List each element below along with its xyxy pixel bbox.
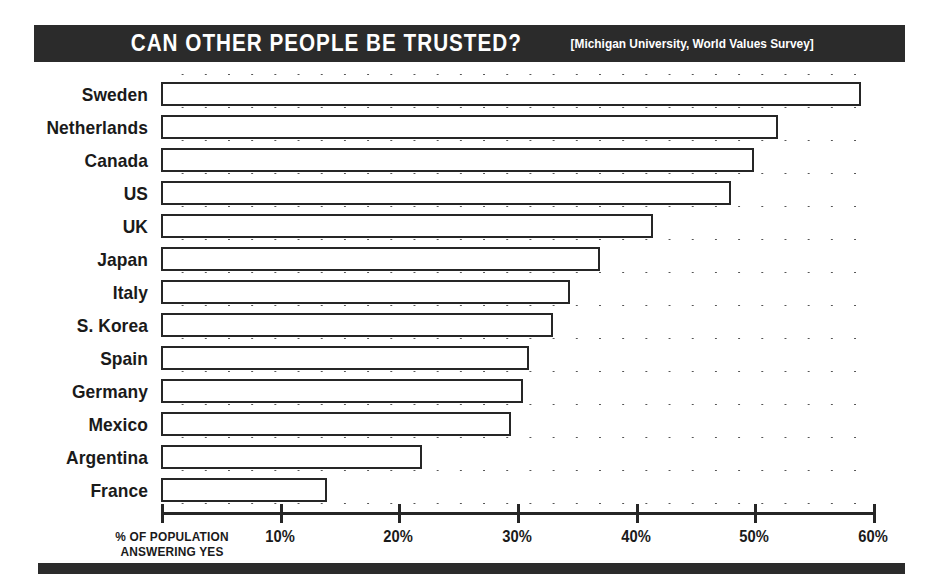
x-axis-tick-label: 10% <box>265 528 294 546</box>
x-axis-tick-label: 50% <box>740 528 769 546</box>
bar-category-label: Sweden <box>9 78 148 111</box>
bar <box>161 346 529 370</box>
bottom-rule <box>38 563 905 574</box>
x-axis-tick-label: 20% <box>384 528 413 546</box>
bar <box>161 313 553 337</box>
chart-source-note: [Michigan University, World Values Surve… <box>570 36 813 52</box>
grid-dot-row <box>161 271 875 274</box>
bar <box>161 379 523 403</box>
x-axis-caption-line2: ANSWERING YES <box>90 545 253 560</box>
bar-category-label: Germany <box>9 375 148 408</box>
bar <box>161 478 327 502</box>
bar <box>161 82 861 106</box>
chart-title: CAN OTHER PEOPLE BE TRUSTED? <box>131 30 522 57</box>
bar-category-label: Spain <box>9 342 148 375</box>
bar-category-label: US <box>9 177 148 210</box>
x-axis-tick-label: 30% <box>502 528 531 546</box>
grid-dot-row <box>161 403 875 406</box>
chart-plot-area: SwedenNetherlandsCanadaUSUKJapanItalyS. … <box>0 70 934 500</box>
x-axis-tick-label: 40% <box>621 528 650 546</box>
grid-dot-row <box>161 73 875 76</box>
grid-dot-row <box>161 139 875 142</box>
bar <box>161 148 754 172</box>
bar <box>161 445 422 469</box>
x-axis-tick <box>636 504 639 523</box>
x-axis-caption-line1: % OF POPULATION <box>90 530 253 545</box>
bar-category-label: France <box>9 474 148 507</box>
grid-dot-row <box>161 106 875 109</box>
grid-dot-row <box>161 469 875 472</box>
x-axis-tick <box>873 504 876 523</box>
bar-category-label: Netherlands <box>9 111 148 144</box>
x-axis-tick-label: 60% <box>858 528 887 546</box>
grid-dot-row <box>161 337 875 340</box>
bar-category-label: UK <box>9 210 148 243</box>
bar <box>161 181 731 205</box>
x-axis-tick <box>398 504 401 523</box>
bar-category-label: Italy <box>9 276 148 309</box>
bar <box>161 214 653 238</box>
x-axis-tick <box>161 504 164 523</box>
x-axis-tick <box>517 504 520 523</box>
x-axis-tick <box>754 504 757 523</box>
bar <box>161 115 778 139</box>
bar-category-label: Japan <box>9 243 148 276</box>
grid-dot-row <box>161 238 875 241</box>
bar <box>161 247 600 271</box>
bar-category-label: Argentina <box>9 441 148 474</box>
x-axis-tick <box>280 504 283 523</box>
bar-category-label: Mexico <box>9 408 148 441</box>
bar-category-label: S. Korea <box>9 309 148 342</box>
grid-dot-row <box>161 172 875 175</box>
grid-dot-row <box>161 205 875 208</box>
chart-title-bar: CAN OTHER PEOPLE BE TRUSTED? [Michigan U… <box>34 25 905 62</box>
bar <box>161 280 570 304</box>
x-axis-caption: % OF POPULATION ANSWERING YES <box>90 530 253 559</box>
bar-category-label: Canada <box>9 144 148 177</box>
grid-dot-row <box>161 304 875 307</box>
grid-dot-row <box>161 436 875 439</box>
grid-dot-row <box>161 370 875 373</box>
bar <box>161 412 511 436</box>
